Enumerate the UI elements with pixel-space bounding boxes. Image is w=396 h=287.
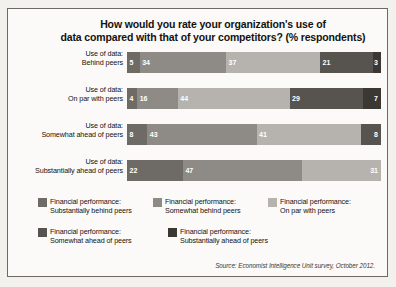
legend-swatch-icon — [168, 228, 177, 237]
legend-item[interactable]: Financial performance:Somewhat ahead of … — [38, 227, 168, 245]
bar-segment-value: 5 — [130, 59, 134, 67]
legend-swatch-icon — [38, 198, 47, 207]
bar-segment-value: 29 — [292, 95, 300, 103]
legend-label-line-2: Substantially ahead of peers — [180, 236, 268, 245]
bar-row-label: Use of data:Somewhat ahead of peers — [16, 121, 123, 139]
stacked-bar: 224731 — [127, 160, 381, 181]
legend-label-line-2: Somewhat behind peers — [165, 206, 240, 215]
legend-label-line-2: Substantially behind peers — [50, 206, 132, 215]
bar-segment-value: 8 — [130, 131, 134, 139]
bar-segment: 43 — [147, 124, 256, 145]
source-note: Source: Economist Intelligence Unit surv… — [215, 262, 375, 269]
bar-segment: 22 — [127, 160, 183, 181]
bar-row-label-line-1: Use of data: — [16, 121, 123, 130]
legend-label: Financial performance:On par with peers — [280, 197, 351, 215]
legend-swatch-icon — [38, 228, 47, 237]
chart-title-line-2: data compared with that of your competit… — [48, 31, 378, 44]
bar-segment: 16 — [137, 88, 178, 109]
bar-row: Use of data:Substantially ahead of peers… — [16, 160, 381, 181]
legend-item[interactable]: Financial performance:Substantially behi… — [38, 197, 153, 215]
legend-row: Financial performance:Substantially behi… — [38, 197, 383, 215]
legend-label-line-1: Financial performance: — [165, 197, 240, 206]
stacked-bar: 41644297 — [127, 88, 381, 109]
bar-segment: 34 — [140, 52, 226, 73]
legend-label-line-1: Financial performance: — [180, 227, 268, 236]
bar-segment: 7 — [363, 88, 381, 109]
stacked-bar: 53437213 — [127, 52, 381, 73]
bar-row-label-line-1: Use of data: — [16, 157, 123, 166]
chart-frame: How would you rate your organization's u… — [7, 8, 388, 277]
bar-segment-value: 22 — [130, 167, 138, 175]
bar-segment-value: 8 — [374, 131, 378, 139]
plot-area: Use of data:Behind peers53437213Use of d… — [16, 50, 381, 188]
bar-segment-value: 16 — [140, 95, 148, 103]
legend-row: Financial performance:Somewhat ahead of … — [38, 227, 383, 245]
legend-label: Financial performance:Substantially ahea… — [180, 227, 268, 245]
legend-label-line-2: Somewhat ahead of peers — [50, 236, 132, 245]
legend-item[interactable]: Financial performance:On par with peers — [268, 197, 383, 215]
legend-label-line-2: On par with peers — [280, 206, 351, 215]
bar-segment-value: 41 — [259, 131, 267, 139]
legend-item[interactable]: Financial performance:Substantially ahea… — [168, 227, 298, 245]
legend-item[interactable]: Financial performance:Somewhat behind pe… — [153, 197, 268, 215]
bar-segment-value: 47 — [185, 167, 193, 175]
legend-label: Financial performance:Somewhat behind pe… — [165, 197, 240, 215]
legend-label-line-1: Financial performance: — [50, 227, 132, 236]
bar-segment-value: 3 — [374, 59, 378, 67]
bar-segment: 41 — [257, 124, 361, 145]
bar-segment: 21 — [320, 52, 373, 73]
bar-segment-value: 44 — [180, 95, 188, 103]
bar-row-label-line-1: Use of data: — [16, 85, 123, 94]
bar-segment: 29 — [290, 88, 364, 109]
bar-segment: 3 — [373, 52, 381, 73]
bar-row: Use of data:Somewhat ahead of peers84341… — [16, 124, 381, 145]
chart-figure: How would you rate your organization's u… — [0, 0, 396, 287]
legend-swatch-icon — [153, 198, 162, 207]
bar-segment: 47 — [183, 160, 302, 181]
bar-segment: 37 — [226, 52, 320, 73]
chart-title: How would you rate your organization's u… — [48, 18, 378, 43]
bar-row-label: Use of data:Behind peers — [16, 49, 123, 67]
chart-legend: Financial performance:Substantially behi… — [38, 197, 383, 255]
bar-row: Use of data:Behind peers53437213 — [16, 52, 381, 73]
legend-swatch-icon — [268, 198, 277, 207]
bar-segment-value: 31 — [370, 167, 378, 175]
bar-segment-value: 21 — [323, 59, 331, 67]
chart-title-line-1: How would you rate your organization's u… — [48, 18, 378, 31]
bar-segment: 44 — [178, 88, 290, 109]
legend-label: Financial performance:Somewhat ahead of … — [50, 227, 132, 245]
bar-row-label: Use of data:Substantially ahead of peers — [16, 157, 123, 175]
bar-segment-value: 7 — [374, 95, 378, 103]
bar-row-label-line-2: Somewhat ahead of peers — [16, 130, 123, 139]
bar-segment: 5 — [127, 52, 140, 73]
bar-segment-value: 34 — [142, 59, 150, 67]
bar-segment-value: 4 — [130, 95, 134, 103]
bar-segment: 31 — [302, 160, 381, 181]
bar-segment: 8 — [127, 124, 147, 145]
bar-segment-value: 37 — [229, 59, 237, 67]
bar-row-label-line-2: Behind peers — [16, 58, 123, 67]
legend-label: Financial performance:Substantially behi… — [50, 197, 132, 215]
legend-label-line-1: Financial performance: — [50, 197, 132, 206]
bar-row: Use of data:On par with peers41644297 — [16, 88, 381, 109]
bar-row-label-line-2: Substantially ahead of peers — [16, 166, 123, 175]
bar-row-label: Use of data:On par with peers — [16, 85, 123, 103]
stacked-bar: 843418 — [127, 124, 381, 145]
bar-segment: 8 — [361, 124, 381, 145]
bar-row-label-line-1: Use of data: — [16, 49, 123, 58]
bar-segment-value: 43 — [150, 131, 158, 139]
bar-segment: 4 — [127, 88, 137, 109]
legend-label-line-1: Financial performance: — [280, 197, 351, 206]
bar-row-label-line-2: On par with peers — [16, 94, 123, 103]
